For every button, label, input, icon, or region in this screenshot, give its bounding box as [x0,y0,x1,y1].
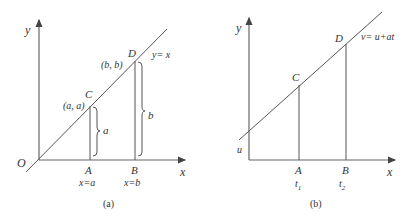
point-a-label: A [84,164,92,176]
point-b-label: B [342,164,349,176]
origin-label: O [17,156,26,170]
y-axis-label: y [235,21,242,35]
point-d-label: D [127,47,136,59]
point-b-sub: t2 [339,178,346,192]
point-c-coord: (a, a) [63,100,85,112]
caption-a: (a) [103,198,114,210]
point-b-label: B [131,164,138,176]
point-a-sub: t1 [295,178,301,192]
panel-a: y x O y= x C (a, a) D (b, b) A x=a B x=b… [17,20,186,210]
point-a-sub: x=a [78,177,95,188]
caption-b: (b) [310,198,322,210]
brace-b-icon [138,62,145,156]
x-axis-label: x [179,165,186,179]
point-c-label: C [85,88,93,100]
point-d-label: D [334,32,343,44]
line-label: y= x [151,49,171,60]
point-a-label: A [294,164,302,176]
intercept-label: u [237,144,242,155]
panel-b: y x u v= u+at C D A t1 B t2 (b) [235,12,395,210]
diagram-canvas: y x O y= x C (a, a) D (b, b) A x=a B x=b… [0,0,415,221]
brace-b-label: b [148,109,154,121]
point-c-label: C [292,71,300,83]
brace-a-icon [93,107,100,156]
line-label: v= u+at [361,31,394,42]
y-axis-label: y [24,23,31,37]
point-d-coord: (b, b) [101,59,123,71]
point-b-sub: x=b [123,177,140,188]
x-axis-label: x [386,165,393,179]
brace-a-label: a [103,124,109,136]
